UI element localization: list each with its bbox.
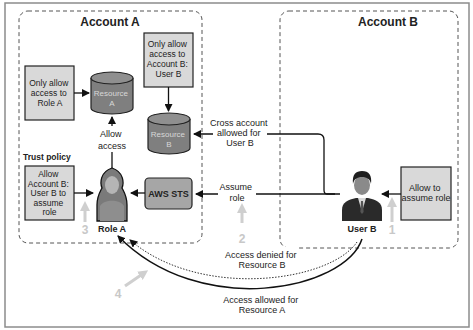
svg-text:AWS STS: AWS STS [148,189,189,199]
svg-text:1: 1 [389,223,396,237]
iam-cross-account-diagram: Account A Account B Only allow access to… [0,0,473,330]
resource-a-database-icon: Resource A [91,72,133,114]
svg-text:2: 2 [239,232,246,246]
trust-policy-box: Allow Account B: User B to assume role [25,166,74,220]
svg-text:3: 3 [82,223,89,237]
policy-box-account-b: Only allow access to Account B: User B [144,33,193,87]
svg-text:4: 4 [115,287,122,301]
policy-box-role-a: Only allow access to Role A [25,66,74,120]
role-a-label: Role A [98,224,127,234]
resource-b-database-icon: Resource B [148,113,190,154]
account-a-title: Account A [80,15,140,29]
account-b-title: Account B [358,15,418,29]
aws-sts-box: AWS STS [145,178,192,209]
user-b-label: User B [347,224,377,234]
trust-policy-label: Trust policy [23,152,71,162]
policy-box-user-b: Allow to assume role [401,167,451,220]
